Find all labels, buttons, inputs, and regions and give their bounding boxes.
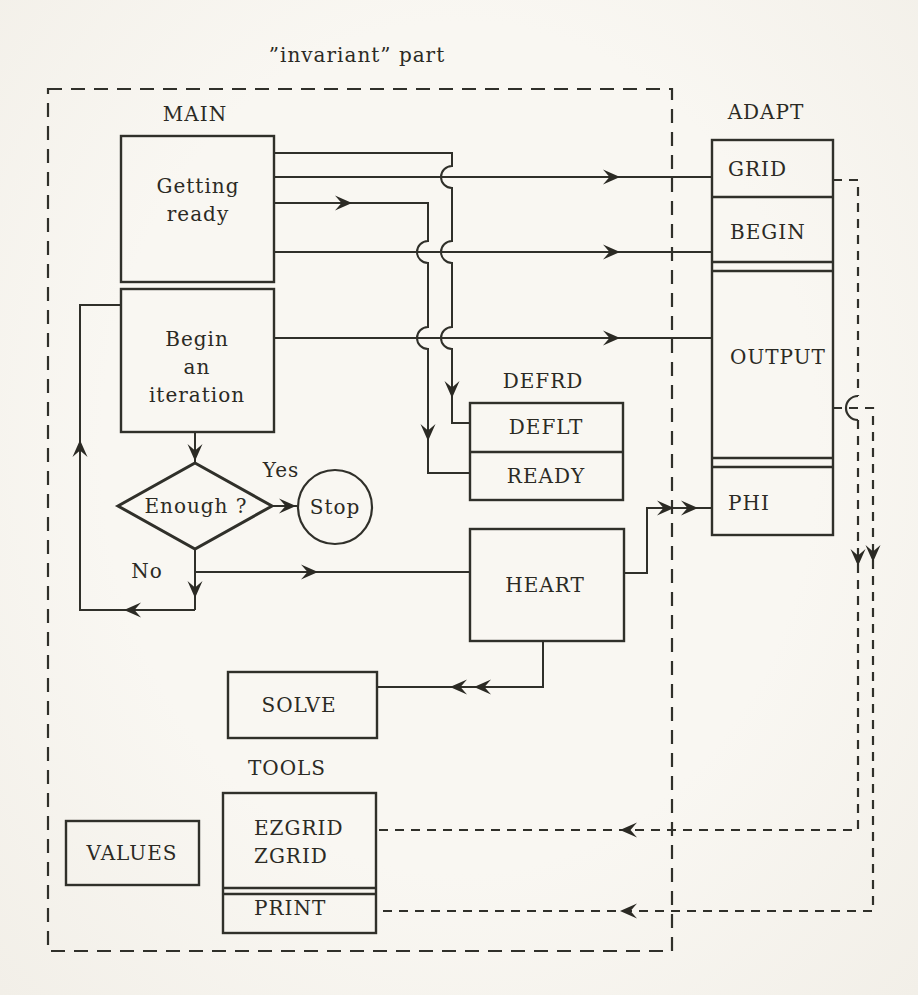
defrd-label: DEFRD (503, 367, 584, 395)
yes-label: Yes (263, 456, 300, 484)
print-label: PRINT (254, 894, 326, 922)
main-label: MAIN (163, 100, 227, 128)
output-label: OUTPUT (730, 343, 826, 371)
no-label: No (131, 557, 163, 585)
solve-label: SOLVE (261, 691, 336, 719)
flowchart-page: ”invariant” part MAIN Getting ready Begi… (0, 0, 918, 995)
decision-question-label: Enough ? (144, 492, 247, 520)
tools-label: TOOLS (248, 754, 326, 782)
grid-label: GRID (728, 155, 787, 183)
phi-label: PHI (728, 489, 770, 517)
diagram-title: ”invariant” part (269, 41, 445, 69)
heart-to-phi-line (624, 508, 712, 573)
ezgrid-zgrid-label: EZGRID ZGRID (254, 814, 343, 870)
heart-label: HEART (505, 571, 585, 599)
deflt-label: DEFLT (509, 413, 584, 441)
arrowhead (620, 904, 637, 919)
getting-ready-label: Getting ready (157, 172, 240, 228)
adapt-box (712, 140, 833, 535)
output-feedback-line-to-print (376, 408, 873, 911)
main-to-deflt-line (275, 153, 470, 423)
ready-label: READY (507, 462, 585, 490)
begin-label: BEGIN (730, 218, 806, 246)
grid-feedback-line-to-ezgrid (376, 420, 858, 830)
adapt-label: ADAPT (728, 98, 805, 126)
grid-feedback-line-top (833, 180, 858, 396)
heart-to-solve-line (377, 641, 543, 687)
begin-iteration-label: Begin an iteration (149, 325, 245, 409)
values-label: VALUES (87, 839, 178, 867)
stop-label: Stop (310, 493, 361, 521)
arrowhead (620, 823, 637, 838)
